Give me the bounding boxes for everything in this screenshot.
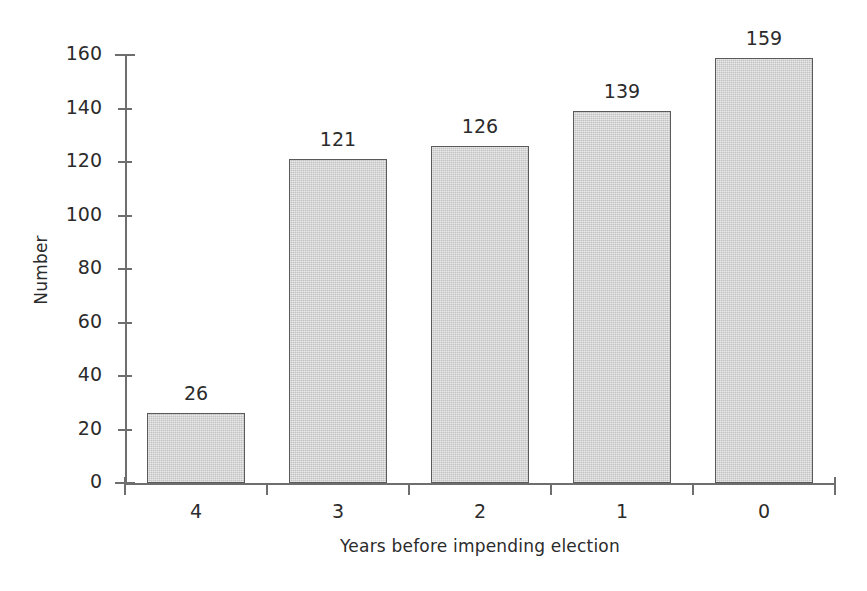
bar-4 [147,413,245,483]
x-axis-title: Years before impending election [125,536,835,556]
bar-1 [573,111,671,483]
y-tick-label: 120 [48,151,102,170]
y-tick-label-wrap: 40 [48,365,102,385]
y-tick [118,108,132,110]
y-tick-label: 140 [48,98,102,117]
bar-2 [431,146,529,483]
y-tick-label-wrap: 80 [48,258,102,278]
bar-0 [715,58,813,483]
x-category-label-2: 2 [420,500,540,522]
y-tick-label-wrap: 20 [48,419,102,439]
y-tick [118,429,132,431]
y-tick-label: 60 [48,312,102,331]
y-tick-label-wrap: 0 [48,472,102,492]
bar-value-label-2: 126 [420,115,540,137]
x-category-label-4: 4 [136,500,256,522]
x-tick [692,483,694,495]
y-tick-label-wrap: 140 [48,98,102,118]
bar-value-label-1: 139 [562,80,682,102]
x-tick [550,483,552,495]
x-category-label-1: 1 [562,500,682,522]
y-tick [115,54,135,56]
x-axis-line [125,483,835,485]
y-tick-label: 20 [48,419,102,438]
y-tick [118,268,132,270]
y-tick [118,161,132,163]
y-tick-label-wrap: 120 [48,151,102,171]
x-category-label-3: 3 [278,500,398,522]
bar-3 [289,159,387,483]
x-tick [266,483,268,495]
y-tick-label: 0 [48,472,102,491]
y-tick-label: 100 [48,205,102,224]
bar-value-label-3: 121 [278,128,398,150]
x-tick [834,477,836,495]
x-tick [408,483,410,495]
y-tick-label-wrap: 60 [48,312,102,332]
y-tick-label-wrap: 100 [48,205,102,225]
x-tick [124,477,126,495]
bar-value-label-4: 26 [136,382,256,404]
y-tick-label: 80 [48,258,102,277]
y-tick-label-wrap: 160 [48,44,102,64]
bar-chart: Number 020406080100120140160 26121126139… [0,0,867,591]
x-category-label-0: 0 [704,500,824,522]
y-tick-label: 160 [48,44,102,63]
y-tick [118,375,132,377]
y-tick [118,322,132,324]
y-tick [118,215,132,217]
y-tick-label: 40 [48,365,102,384]
bar-value-label-0: 159 [704,27,824,49]
